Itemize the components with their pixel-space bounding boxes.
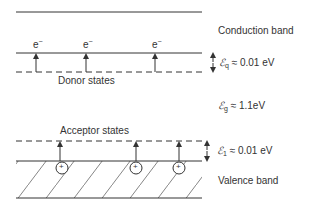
energy-value: ≈ 0.01 eV: [227, 145, 273, 156]
acceptor-energy-label: ℰ1 ≈ 0.01 eV: [217, 146, 272, 157]
acceptor-states-label: Acceptor states: [60, 126, 129, 136]
electron-charge: −: [39, 38, 43, 45]
hole-plus-sign: +: [176, 163, 181, 171]
hole-plus-sign: +: [59, 163, 64, 171]
energy-value: ≈ 1.1eV: [228, 100, 265, 111]
valence-band-label: Valence band: [218, 176, 278, 186]
donor-energy-label: ℰq ≈ 0.01 eV: [219, 58, 274, 69]
hole-plus-sign: +: [133, 163, 138, 171]
electron-label: e−: [83, 38, 93, 50]
electron-charge: −: [89, 38, 93, 45]
electron-label: e−: [33, 38, 43, 50]
energy-value: ≈ 0.01 eV: [229, 57, 275, 68]
electron-label: e−: [152, 38, 162, 50]
electron-charge: −: [158, 38, 162, 45]
gap-energy-label: ℰg ≈ 1.1eV: [218, 101, 265, 112]
conduction-band-label: Conduction band: [218, 26, 294, 36]
donor-states-label: Donor states: [58, 76, 115, 86]
